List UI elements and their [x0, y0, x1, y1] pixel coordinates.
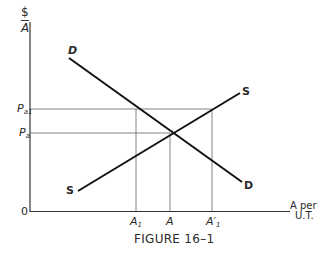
supply-label-start: S — [66, 185, 74, 196]
origin-label: 0 — [21, 206, 28, 217]
x-tick-a1-prime: A′1 — [206, 216, 221, 229]
supply-label-end: S — [242, 86, 250, 97]
y-tick-pa: Pa — [19, 127, 30, 140]
y-axis-label-bottom: A — [21, 20, 29, 34]
demand-label-start: D — [68, 45, 77, 56]
demand-label-end: D — [244, 180, 253, 191]
x-axis-label-line2: U.T. — [295, 211, 314, 221]
y-tick-pa1: Pa1 — [17, 103, 32, 116]
figure-caption: FIGURE 16–1 — [134, 232, 214, 246]
x-tick-a: A — [166, 216, 174, 227]
x-tick-a1: A1 — [130, 216, 142, 229]
y-axis-label-top: $ — [21, 6, 29, 18]
demand-curve — [69, 58, 242, 182]
supply-curve — [78, 93, 240, 191]
